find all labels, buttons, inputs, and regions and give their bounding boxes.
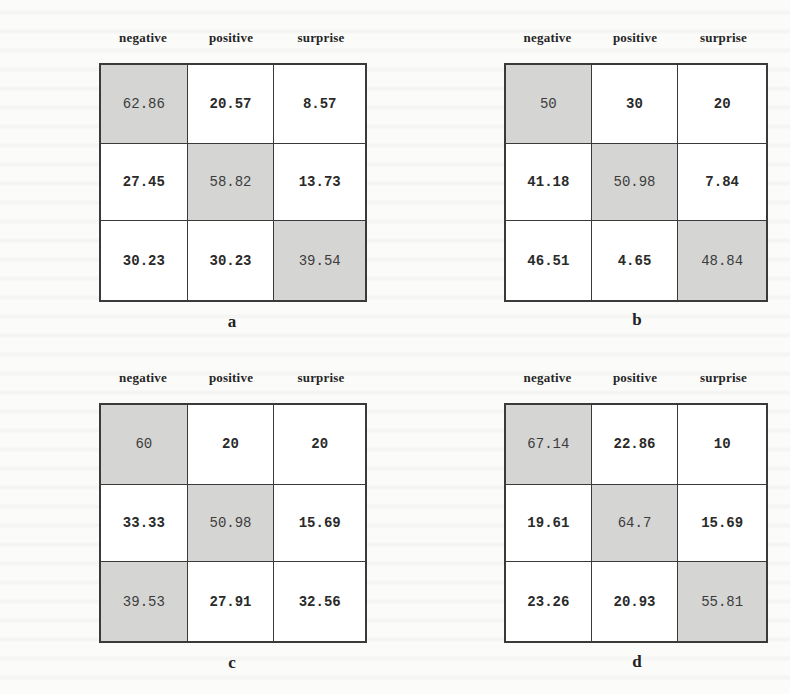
matrix-cell: 27.91 (188, 562, 275, 641)
cell-value: 20 (714, 96, 731, 112)
confusion-matrix-grid: 62.8620.578.5727.4558.8213.7330.2330.233… (99, 63, 367, 302)
subfigure-label: c (228, 653, 236, 673)
cell-value: 13.73 (299, 174, 341, 190)
highlighted-cell: 48.84 (678, 221, 766, 300)
matrix-cell: 20.57 (188, 65, 275, 144)
cell-value: 19.61 (527, 515, 569, 531)
cell-value: 39.54 (299, 253, 341, 269)
matrix-cell: 41.18 (506, 144, 592, 222)
cell-value: 60 (135, 436, 152, 452)
cell-value: 20 (222, 436, 239, 452)
column-header: negative (119, 370, 167, 386)
subfigure-label: a (228, 312, 237, 332)
cell-value: 39.53 (123, 594, 165, 610)
column-header: positive (209, 370, 253, 386)
cell-value: 67.14 (527, 436, 569, 452)
highlighted-cell: 50 (506, 65, 592, 144)
confusion-matrix-grid: 50302041.1850.987.8446.514.6548.84 (504, 63, 768, 302)
cell-value: 30.23 (210, 253, 252, 269)
highlighted-cell: 50.98 (188, 485, 275, 563)
confusion-matrix-grid: 60202033.3350.9815.6939.5327.9132.56 (99, 403, 367, 643)
column-header: surprise (297, 30, 344, 46)
highlighted-cell: 58.82 (188, 144, 275, 222)
cell-value: 48.84 (701, 253, 743, 269)
highlighted-cell: 67.14 (506, 405, 592, 485)
matrix-cell: 30.23 (101, 221, 188, 300)
matrix-cell: 22.86 (592, 405, 679, 485)
cell-value: 30.23 (123, 253, 165, 269)
subfigure-label: b (632, 310, 641, 330)
cell-value: 55.81 (701, 594, 743, 610)
matrix-cell: 27.45 (101, 144, 188, 222)
column-header: positive (209, 30, 253, 46)
cell-value: 27.45 (123, 174, 165, 190)
column-header: negative (524, 370, 572, 386)
column-header: surprise (297, 370, 344, 386)
matrix-cell: 30 (592, 65, 679, 144)
matrix-cell: 4.65 (592, 221, 679, 300)
highlighted-cell: 39.53 (101, 562, 188, 641)
column-header: negative (119, 30, 167, 46)
column-header: surprise (700, 30, 747, 46)
cell-value: 50.98 (614, 174, 656, 190)
cell-value: 20.93 (614, 594, 656, 610)
matrix-cell: 15.69 (678, 485, 766, 563)
cell-value: 30 (626, 96, 643, 112)
cell-value: 7.84 (705, 174, 739, 190)
matrix-cell: 46.51 (506, 221, 592, 300)
matrix-cell: 23.26 (506, 562, 592, 641)
column-header: negative (524, 30, 572, 46)
cell-value: 8.57 (303, 96, 337, 112)
cell-value: 33.33 (123, 515, 165, 531)
highlighted-cell: 64.7 (592, 485, 679, 563)
cell-value: 50.98 (210, 515, 252, 531)
cell-value: 41.18 (527, 174, 569, 190)
cell-value: 20 (311, 436, 328, 452)
column-header: surprise (700, 370, 747, 386)
highlighted-cell: 50.98 (592, 144, 679, 222)
cell-value: 62.86 (123, 96, 165, 112)
matrix-cell: 30.23 (188, 221, 275, 300)
matrix-cell: 10 (678, 405, 766, 485)
matrix-cell: 32.56 (274, 562, 365, 641)
column-header: positive (613, 370, 657, 386)
subfigure-label: d (632, 652, 641, 672)
matrix-cell: 33.33 (101, 485, 188, 563)
highlighted-cell: 55.81 (678, 562, 766, 641)
cell-value: 20.57 (210, 96, 252, 112)
matrix-cell: 15.69 (274, 485, 365, 563)
matrix-cell: 8.57 (274, 65, 365, 144)
cell-value: 27.91 (210, 594, 252, 610)
cell-value: 58.82 (210, 174, 252, 190)
cell-value: 15.69 (701, 515, 743, 531)
matrix-cell: 20 (188, 405, 275, 485)
highlighted-cell: 62.86 (101, 65, 188, 144)
cell-value: 46.51 (527, 253, 569, 269)
matrix-cell: 20 (678, 65, 766, 144)
cell-value: 32.56 (299, 594, 341, 610)
cell-value: 22.86 (614, 436, 656, 452)
cell-value: 15.69 (299, 515, 341, 531)
column-header: positive (613, 30, 657, 46)
cell-value: 50 (540, 96, 557, 112)
cell-value: 4.65 (618, 253, 652, 269)
highlighted-cell: 39.54 (274, 221, 365, 300)
matrix-cell: 20 (274, 405, 365, 485)
cell-value: 23.26 (527, 594, 569, 610)
matrix-cell: 19.61 (506, 485, 592, 563)
confusion-matrix-grid: 67.1422.861019.6164.715.6923.2620.9355.8… (504, 403, 768, 643)
highlighted-cell: 60 (101, 405, 188, 485)
cell-value: 64.7 (618, 515, 652, 531)
matrix-cell: 20.93 (592, 562, 679, 641)
cell-value: 10 (714, 436, 731, 452)
matrix-cell: 7.84 (678, 144, 766, 222)
matrix-cell: 13.73 (274, 144, 365, 222)
